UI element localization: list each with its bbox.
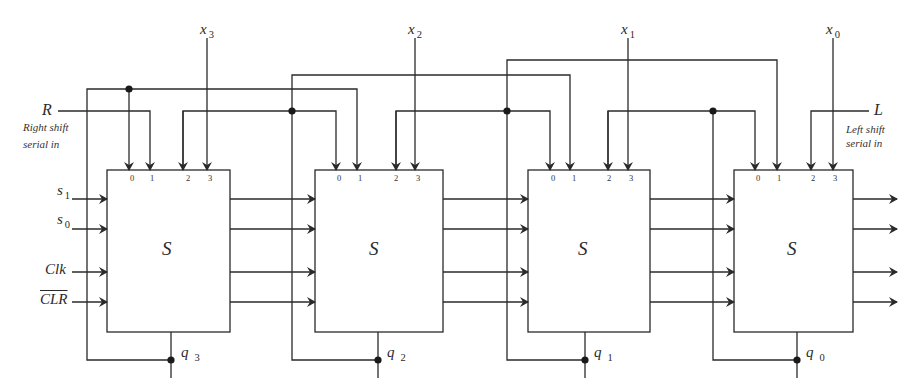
x1-label: x1 xyxy=(621,22,635,40)
q1-label: q1 xyxy=(594,345,613,363)
stage-0-name: S xyxy=(787,238,797,260)
stage-2-name: S xyxy=(369,238,379,260)
stage-2-block xyxy=(315,170,443,332)
clk-label: Clk xyxy=(45,262,66,277)
parallel-input-lines xyxy=(207,38,833,170)
left-serial-note: Left shift serial in xyxy=(846,122,885,150)
s1-label: s1 xyxy=(57,183,70,201)
q0-label: q0 xyxy=(806,345,825,363)
stage-1-block xyxy=(528,170,650,332)
x2-label: x2 xyxy=(408,22,422,40)
clr-label: CLR xyxy=(40,292,68,307)
right-serial-note: Right shift serial in xyxy=(23,119,69,153)
s0-label: s0 xyxy=(57,212,70,230)
right-serial-wire xyxy=(58,111,150,170)
x0-label: x0 xyxy=(826,22,840,40)
q2-label: q2 xyxy=(387,345,406,363)
shift-register-diagram xyxy=(0,0,917,389)
stage-1-name: S xyxy=(578,238,588,260)
q3-label: q3 xyxy=(181,345,200,363)
left-serial-label: L xyxy=(874,102,883,118)
stage-3-name: S xyxy=(162,238,172,260)
right-serial-label: R xyxy=(42,102,52,118)
x3-label: x3 xyxy=(200,22,214,40)
